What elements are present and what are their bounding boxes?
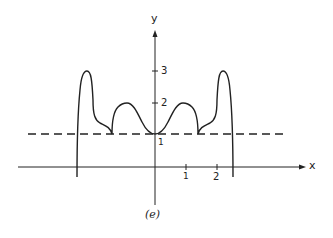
x-axis-label: x	[309, 160, 316, 171]
x-axis-arrow	[299, 165, 306, 170]
x-tick-label-1: 1	[183, 172, 189, 181]
y-tick-label-1: 1	[158, 138, 164, 147]
figure-caption: (e)	[145, 208, 160, 221]
plot-area	[0, 0, 333, 238]
x-tick-label-2: 2	[213, 172, 219, 182]
y-axis-arrow	[153, 30, 158, 37]
y-tick-label-2: 2	[161, 98, 167, 108]
y-tick-label-3: 3	[161, 66, 167, 76]
y-axis-label: y	[151, 13, 158, 24]
